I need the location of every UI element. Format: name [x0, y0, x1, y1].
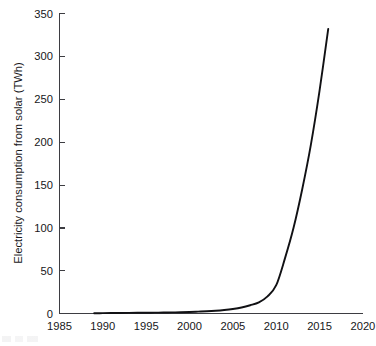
x-axis-tick-labels: 1985 1990 1995 2000 2005 2010 2015 2020 [47, 320, 375, 332]
scan-edge-artifact [2, 336, 38, 342]
y-tick-label-350: 350 [34, 8, 53, 20]
y-tick-label-300: 300 [34, 50, 53, 62]
y-tick-label-200: 200 [34, 136, 53, 148]
x-tick-label-2005: 2005 [220, 320, 245, 332]
y-tick-label-0: 0 [47, 308, 53, 320]
solar-consumption-series-line [94, 29, 328, 313]
x-tick-label-1995: 1995 [134, 320, 159, 332]
x-tick-label-1985: 1985 [47, 320, 72, 332]
solar-consumption-line-chart: 350 300 250 200 150 100 50 0 1985 1990 1… [0, 0, 376, 346]
plot-axes [60, 13, 364, 314]
x-tick-label-1990: 1990 [90, 320, 115, 332]
chart-figure: 350 300 250 200 150 100 50 0 1985 1990 1… [0, 0, 376, 346]
x-tick-label-2015: 2015 [307, 320, 332, 332]
y-axis-tick-labels: 350 300 250 200 150 100 50 0 [34, 8, 53, 320]
x-tick-label-2010: 2010 [264, 320, 289, 332]
y-axis-ticks [60, 14, 66, 271]
y-tick-label-150: 150 [34, 179, 53, 191]
y-tick-label-250: 250 [34, 93, 53, 105]
y-tick-label-50: 50 [41, 265, 53, 277]
x-tick-label-2020: 2020 [350, 320, 375, 332]
x-tick-label-2000: 2000 [177, 320, 202, 332]
y-axis-title: Electricity consumption from solar (TWh) [12, 62, 24, 264]
y-tick-label-100: 100 [34, 222, 53, 234]
